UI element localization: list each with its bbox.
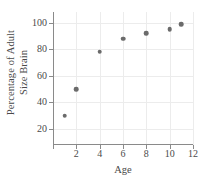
y-axis-label-line-1: Percentage of Adult	[6, 30, 19, 115]
x-tick-label: 2	[74, 149, 79, 159]
x-axis-spine	[53, 144, 193, 145]
y-tick-label: 100	[32, 18, 47, 28]
x-axis-label: Age	[53, 164, 193, 176]
gridline-vertical	[100, 12, 101, 145]
x-tick-label: 4	[97, 149, 102, 159]
gridline-vertical	[193, 12, 194, 145]
data-point	[97, 50, 102, 55]
y-axis-label: Percentage of Adult Size Brain	[0, 0, 36, 145]
scatter-chart-figure: Percentage of Adult Size Brain 204060801…	[0, 0, 204, 189]
y-axis-spine	[53, 12, 54, 145]
data-point	[62, 113, 67, 118]
y-axis-label-line-2: Size Brain	[18, 30, 31, 115]
data-point	[144, 31, 149, 36]
data-point	[121, 36, 126, 41]
y-tick-label: 80	[37, 44, 47, 54]
data-point	[167, 27, 172, 32]
gridline-vertical	[123, 12, 124, 145]
data-point	[74, 87, 79, 92]
x-tick-label: 10	[165, 149, 175, 159]
gridline-vertical	[170, 12, 171, 145]
plot-area: 20406080100 24681012	[53, 12, 193, 145]
x-tick-label: 12	[188, 149, 198, 159]
x-tick-mark	[53, 145, 54, 149]
y-tick-label: 20	[37, 124, 47, 134]
x-tick-label: 6	[121, 149, 126, 159]
y-tick-label: 60	[37, 71, 47, 81]
x-tick-label: 8	[144, 149, 149, 159]
gridline-vertical	[76, 12, 77, 145]
y-tick-label: 40	[37, 97, 47, 107]
data-point	[179, 22, 184, 27]
